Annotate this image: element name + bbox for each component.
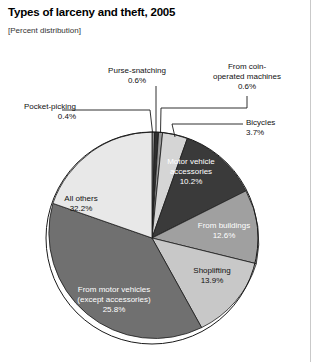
callout-bicycles: Bicycles 3.7% (246, 118, 306, 138)
callout-purse-snatching: Purse-snatching 0.6% (97, 66, 177, 86)
callout-bicycles-name: Bicycles (246, 118, 275, 127)
callout-bicycles-value: 3.7% (246, 128, 306, 138)
label-from-motor-vehicles-line1: From motor vehicles (78, 285, 150, 294)
label-from-buildings: From buildings 12.6% (182, 221, 266, 241)
leader-coin-operated-machines (161, 96, 248, 133)
callout-coin-operated-machines-line1: From coin- (228, 62, 266, 71)
callout-purse-snatching-value: 0.6% (97, 76, 177, 86)
label-motor-vehicle-accessories-value: 10.2% (180, 177, 203, 186)
label-from-motor-vehicles-value: 25.8% (103, 305, 126, 314)
label-all-others: All others 32.2% (45, 194, 117, 214)
label-from-buildings-name: From buildings (198, 221, 250, 230)
chart-page: Types of larceny and theft, 2005 [Percen… (0, 0, 311, 362)
label-from-motor-vehicles: From motor vehicles (except accessories)… (58, 285, 170, 315)
label-all-others-value: 32.2% (70, 204, 93, 213)
label-shoplifting-name: Shoplifting (193, 266, 230, 275)
callout-pocket-picking-name: Pocket-picking (24, 102, 76, 111)
label-shoplifting: Shoplifting 13.9% (176, 266, 248, 286)
leader-bicycles (172, 124, 243, 137)
callout-pocket-picking: Pocket-picking 0.4% (6, 102, 76, 122)
label-from-motor-vehicles-line2: (except accessories) (77, 295, 150, 304)
label-from-buildings-value: 12.6% (213, 231, 236, 240)
callout-coin-operated-machines-value: 0.6% (196, 82, 298, 92)
callout-pocket-picking-value: 0.4% (6, 112, 76, 122)
label-motor-vehicle-accessories-line2: accessories (170, 167, 212, 176)
callout-purse-snatching-name: Purse-snatching (108, 66, 166, 75)
label-motor-vehicle-accessories-line1: Motor vehicle (167, 157, 215, 166)
callout-coin-operated-machines-line2: operated machines (196, 72, 298, 82)
label-motor-vehicle-accessories: Motor vehicle accessories 10.2% (150, 157, 232, 187)
leader-lines (62, 86, 247, 137)
label-all-others-name: All others (64, 194, 97, 203)
label-shoplifting-value: 13.9% (201, 276, 224, 285)
callout-coin-operated-machines: From coin- operated machines 0.6% (196, 62, 298, 92)
